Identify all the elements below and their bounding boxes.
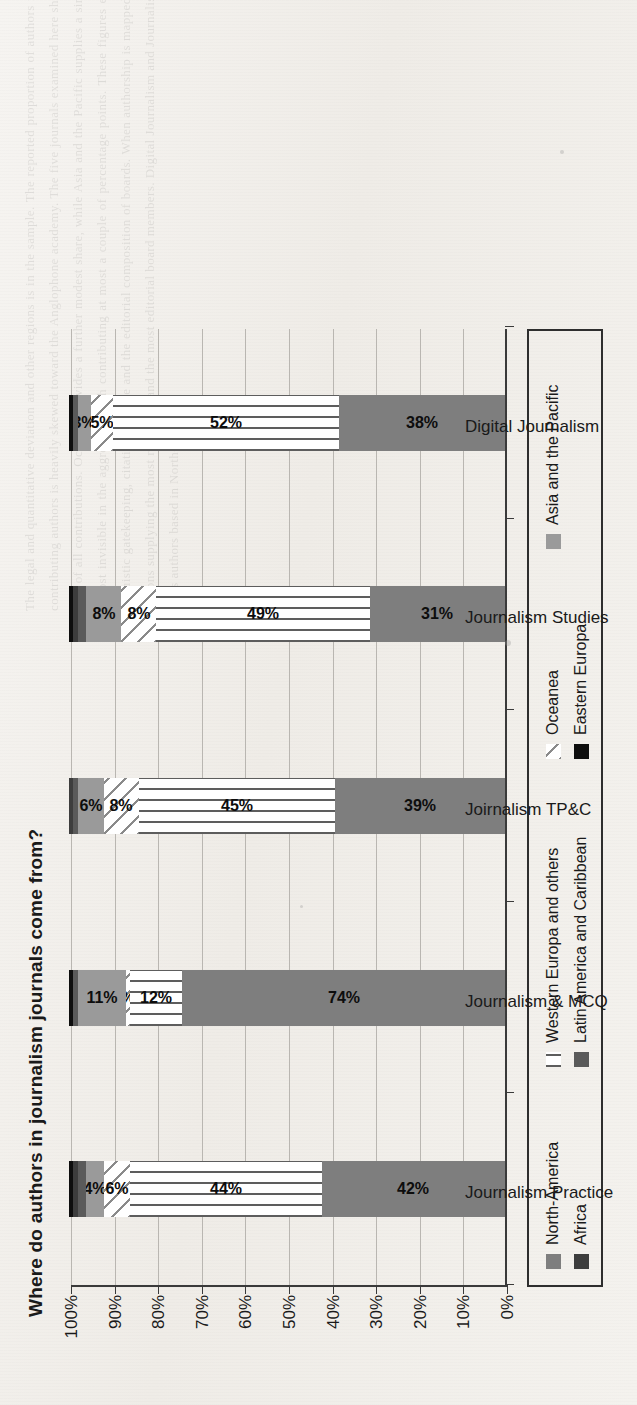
bar-segment[interactable] [77, 586, 86, 642]
bar-segment-value-label: 31% [421, 605, 453, 623]
bar-segment[interactable] [73, 586, 77, 642]
bar-segment[interactable]: 1% [125, 969, 129, 1025]
x-axis-category-label: Journalism & MCQ [465, 991, 608, 1011]
bar-segment-value-label: 6% [79, 797, 102, 815]
x-axis-category-label: Journalism Studies [465, 608, 609, 628]
bar-segment-value-label: 49% [246, 605, 278, 623]
legend-item-western-europa[interactable]: Western Europa and others [544, 789, 562, 1067]
y-axis-tick-label: 20% [411, 1295, 428, 1351]
chart-title: Where do authors in journalism journals … [25, 828, 47, 1316]
bar-segment-value-label: 3% [77, 413, 90, 431]
bar-segment-value-label: 74% [327, 988, 359, 1006]
bar-segment[interactable]: 6% [103, 1161, 129, 1217]
x-axis-tick [505, 326, 514, 327]
bar-segment[interactable]: 3% [77, 394, 90, 450]
legend-swatch-icon-north-america [545, 1254, 560, 1269]
x-axis-tick [505, 517, 514, 518]
y-axis-tick-label: 0% [499, 1295, 516, 1351]
y-axis-tick [245, 1285, 246, 1294]
y-axis-tick [289, 1285, 290, 1294]
legend-swatch-icon-latin-america [573, 1052, 588, 1067]
x-axis-tick [505, 900, 514, 901]
bar-segment-value-label: 8% [92, 605, 115, 623]
bar-4[interactable]: 31%49%8%8% [69, 586, 505, 642]
legend-swatch-icon-oceanea [545, 744, 560, 759]
bar-segment[interactable]: 8% [86, 586, 121, 642]
bar-segment-value-label: 52% [209, 413, 241, 431]
bar-segment[interactable]: 49% [156, 586, 370, 642]
bar-3[interactable]: 39%45%8%6% [69, 778, 505, 834]
bar-5[interactable]: 38%52%5%3% [69, 394, 505, 450]
x-axis-tick [505, 709, 514, 710]
bar-segment[interactable]: 74% [182, 969, 505, 1025]
bar-segment[interactable] [69, 394, 73, 450]
bar-segment[interactable] [73, 969, 77, 1025]
legend-swatch-icon-western-europa [545, 1052, 560, 1067]
x-axis-tick [505, 1092, 514, 1093]
bar-1[interactable]: 42%44%6%4% [69, 1161, 505, 1217]
bar-segment[interactable] [73, 778, 77, 834]
bar-segment-value-label: 8% [109, 797, 132, 815]
bar-segment-value-label: 4% [86, 1180, 103, 1198]
bar-segment[interactable]: 11% [77, 969, 125, 1025]
legend-label: Western Europa and others [544, 847, 562, 1042]
bar-segment[interactable]: 5% [90, 394, 112, 450]
x-axis-category-label: Journalism Practice [465, 1183, 613, 1203]
bar-segment[interactable] [69, 969, 73, 1025]
bar-segment-value-label: 5% [90, 413, 112, 431]
y-axis-tick [376, 1285, 377, 1294]
bar-segment-value-label: 42% [397, 1180, 429, 1198]
y-axis-tick-label: 30% [368, 1295, 385, 1351]
y-axis-tick [201, 1285, 202, 1294]
bar-segment-value-label: 45% [220, 797, 252, 815]
plot-area: 0%10%20%30%40%50%60%70%80%90%100%42%44%6… [71, 329, 507, 1287]
legend-item-eastern-europa[interactable]: Eastern Europa [572, 579, 590, 759]
bar-segment-value-label: 12% [140, 988, 172, 1006]
y-axis-tick [71, 1285, 72, 1294]
scan-artifact [560, 150, 564, 154]
legend-label: Eastern Europa [572, 623, 590, 734]
legend-label: Oceanea [544, 670, 562, 735]
bar-segment[interactable] [73, 394, 77, 450]
legend-item-oceanea[interactable]: Oceanea [544, 579, 562, 759]
legend-label: Asia and the Pacific [544, 384, 562, 525]
chart-stage: Where do authors in journalism journals … [19, 33, 619, 1373]
bar-segment[interactable]: 8% [103, 778, 138, 834]
legend-swatch-icon-asia-pacific [545, 534, 560, 549]
bar-segment[interactable]: 52% [112, 394, 339, 450]
bar-segment-value-label: 8% [127, 605, 150, 623]
legend-swatch-icon-africa [573, 1254, 588, 1269]
bar-segment[interactable]: 8% [121, 586, 156, 642]
y-axis-tick [419, 1285, 420, 1294]
bar-segment-value-label: 11% [86, 988, 117, 1006]
y-axis-tick-label: 80% [150, 1295, 167, 1351]
x-axis-category-label: Digital Journalism [465, 416, 599, 436]
bar-segment[interactable]: 6% [77, 778, 103, 834]
bar-segment-value-label: 38% [406, 413, 438, 431]
bar-segment[interactable]: 12% [130, 969, 182, 1025]
legend-label: Africa [572, 1204, 590, 1245]
y-axis-tick-label: 100% [63, 1295, 80, 1351]
bar-segment[interactable] [69, 1161, 73, 1217]
legend-swatch-icon-eastern-europa [573, 744, 588, 759]
legend-item-latin-america[interactable]: Latin America and Caribbean [572, 789, 590, 1067]
bar-segment-value-label: 39% [403, 797, 435, 815]
bar-segment[interactable]: 45% [138, 778, 334, 834]
scan-artifact [300, 905, 303, 908]
bar-segment[interactable] [77, 1161, 86, 1217]
bar-segment-value-label: 6% [105, 1180, 128, 1198]
scan-artifact [505, 640, 511, 646]
x-axis-tick [505, 1284, 514, 1285]
bar-segment-value-label: 1% [125, 988, 129, 1006]
bar-segment[interactable] [69, 586, 73, 642]
y-axis-tick-label: 60% [237, 1295, 254, 1351]
bar-segment[interactable] [69, 778, 73, 834]
bar-segment[interactable]: 4% [86, 1161, 103, 1217]
bar-2[interactable]: 74%12%1%11% [69, 969, 505, 1025]
bar-segment[interactable] [73, 1161, 77, 1217]
y-axis-tick [158, 1285, 159, 1294]
x-axis-category-label: Joirnalism TP&C [465, 800, 591, 820]
legend-item-asia-pacific[interactable]: Asia and the Pacific [544, 384, 562, 549]
y-axis-tick-label: 50% [281, 1295, 298, 1351]
bar-segment[interactable]: 44% [130, 1161, 322, 1217]
